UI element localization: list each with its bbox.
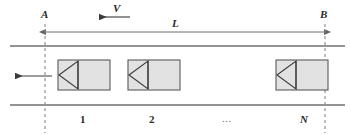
car-n-body [276,60,328,90]
label-point-b: B [320,9,327,20]
car-n [276,60,328,90]
car-1 [58,60,110,90]
label-velocity: V [113,3,120,14]
car-2-body [128,60,180,90]
label-length: L [172,18,179,29]
label-car-2: 2 [149,114,155,125]
car-2 [128,60,180,90]
physics-diagram: A B V L 1 2 ... N [0,0,351,135]
car-1-body [58,60,110,90]
label-point-a: A [41,9,48,20]
label-car-ellipsis: ... [222,113,232,124]
label-car-1: 1 [80,114,86,125]
label-car-n: N [300,114,308,125]
